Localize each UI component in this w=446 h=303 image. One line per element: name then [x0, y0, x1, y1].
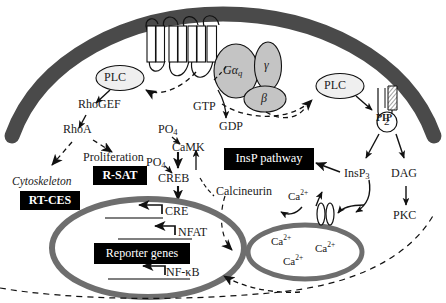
g-gamma-label: γ [264, 59, 269, 71]
ca-free-superscript: 2+ [300, 188, 308, 197]
nfkb-label: NF-κB [166, 266, 199, 278]
camk-label: CaMK [172, 141, 205, 153]
insp-pathway-box: InsP pathway [224, 148, 314, 170]
nfat-label: NFAT [178, 226, 207, 238]
rt-ces-box: RT-CES [20, 191, 80, 210]
pip2-bottom-label: 2 [384, 116, 390, 127]
calcineurin-label: Calcineurin [216, 185, 272, 197]
insp3-subscript: 3 [365, 171, 369, 181]
plc-right-label: PLC [324, 79, 346, 91]
po4-lower-label: PO4 [146, 156, 166, 170]
creb-label: CREB [158, 172, 189, 184]
signaling-pathway-figure: PLC PLC Gαq γ β GTP GDP PIP 2 RhoGEF Rho… [0, 0, 446, 303]
g-alpha-q-subscript: q [238, 68, 242, 78]
g-beta-label: β [261, 92, 267, 104]
proliferation-label: Proliferation [83, 151, 144, 163]
insp3-label: InsP3 [344, 167, 370, 181]
r-sat-box: R-SAT [93, 166, 147, 185]
ca-store-ion-3-superscript: 2+ [295, 253, 303, 262]
rhogef-label: RhoGEF [78, 98, 121, 110]
dag-label: DAG [391, 167, 417, 179]
gtp-label: GTP [193, 100, 216, 112]
cre-label: CRE [165, 205, 188, 217]
ca-store-ion-2: Ca2+ [315, 241, 335, 254]
ca-store-ion-1: Ca2+ [271, 234, 291, 247]
ca-store-ion-2-superscript: 2+ [327, 240, 335, 249]
insp3-to-box-arrow [316, 163, 340, 172]
calcium-channel [317, 203, 334, 225]
gdp-label: GDP [219, 120, 243, 132]
pathway-vector-layer [0, 0, 446, 303]
plc-left-label: PLC [104, 71, 126, 83]
calcineurin-to-camk-dashed [200, 178, 214, 196]
cytoskeleton-label: Cytoskeleton [12, 176, 71, 188]
calcium-store [248, 203, 362, 279]
ca-store-ion-1-superscript: 2+ [283, 233, 291, 242]
po4-upper-label: PO4 [158, 123, 178, 137]
pkc-label: PKC [393, 209, 416, 221]
reporter-genes-box: Reporter genes [94, 243, 190, 264]
ca-store-ion-3: Ca2+ [283, 254, 303, 267]
po4-lower-subscript: 4 [161, 160, 165, 170]
g-alpha-q-label: Gαq [223, 64, 242, 78]
ca-free-label: Ca2+ [288, 189, 308, 202]
rhoa-label: RhoA [63, 123, 92, 135]
po4-upper-subscript: 4 [173, 127, 177, 137]
